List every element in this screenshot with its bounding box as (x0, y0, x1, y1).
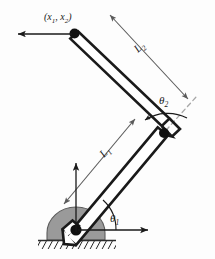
theta1-label: θ1 (110, 212, 119, 227)
svg-text:(x1, x2): (x1, x2) (44, 11, 72, 25)
svg-text:θ1: θ1 (110, 212, 119, 227)
theta2-sub: 2 (164, 100, 168, 109)
theta2-label: θ2 (159, 94, 168, 109)
end-effector-close: ) (67, 11, 72, 23)
end-effector-label: (x1, x2) (44, 11, 72, 25)
robot-arm-figure: (x1, x2) L2 L1 θ2 θ1 (0, 0, 215, 259)
svg-text:θ2: θ2 (159, 94, 168, 109)
theta1-sub: 1 (115, 218, 119, 227)
elbow-joint-dot (159, 128, 169, 138)
robot-arm-diagram-canvas: (x1, x2) L2 L1 θ2 θ1 (0, 0, 215, 259)
L1-dimension-arrow (64, 119, 135, 204)
link-2 (70, 31, 169, 126)
